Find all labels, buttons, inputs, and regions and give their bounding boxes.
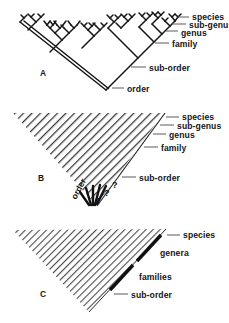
panel-a-label-sub-order: sub-order <box>149 63 191 73</box>
panel-b-query-1: ? <box>112 180 118 190</box>
panel-b-query-2: ? <box>104 188 110 198</box>
panel-a-label-family: family <box>172 39 198 49</box>
taxonomy-figure: species sub-genus genus family sub-order… <box>0 0 229 323</box>
panel-a-leaders <box>112 17 189 88</box>
panel-a-label-genus: genus <box>181 28 207 38</box>
figure-canvas: species sub-genus genus family sub-order… <box>0 0 229 323</box>
panel-b-label-sub-order: sub-order <box>139 173 181 183</box>
panel-a-label-order: order <box>127 84 150 94</box>
panel-a: species sub-genus genus family sub-order… <box>20 12 229 94</box>
panel-c-label-sub-order: sub-order <box>131 290 173 300</box>
panel-b-letter: B <box>38 173 44 183</box>
panel-c-label-genera: genera <box>160 248 189 258</box>
panel-b: species sub-genus genus family sub-order… <box>13 112 221 206</box>
panel-b-label-family: family <box>161 143 187 153</box>
panel-b-label-genus: genus <box>169 130 195 140</box>
panel-c-label-families: families <box>139 272 172 282</box>
panel-a-letter: A <box>40 68 46 78</box>
panel-b-triangle <box>13 113 165 206</box>
panel-c-label-species: species <box>183 230 215 240</box>
panel-a-tree-lines <box>20 12 181 90</box>
panel-c: species genera families sub-order C <box>13 229 215 312</box>
panel-c-letter: C <box>40 289 46 299</box>
panel-b-query-3: ? <box>95 196 101 206</box>
